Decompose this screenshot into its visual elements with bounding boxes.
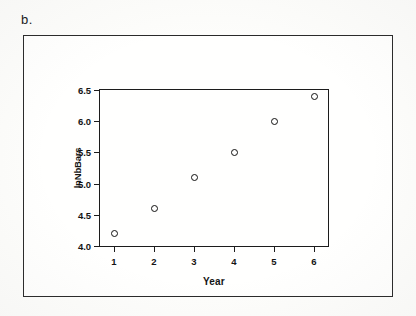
x-axis-tick-label: 6 — [311, 256, 316, 267]
x-axis-tick — [234, 246, 235, 252]
x-axis-title: Year — [203, 276, 225, 287]
y-axis-tick — [94, 184, 100, 185]
y-axis-tick — [94, 90, 100, 91]
y-axis-tick-label: 4.0 — [78, 241, 91, 252]
plot-inner: 4.04.55.05.56.06.5123456 — [100, 90, 328, 246]
data-point-marker — [311, 93, 318, 100]
y-axis-tick — [94, 152, 100, 153]
data-point-marker — [111, 230, 118, 237]
y-axis-tick-label: 4.5 — [78, 209, 91, 220]
y-axis-tick — [94, 246, 100, 247]
x-axis-tick — [154, 246, 155, 252]
x-axis-tick — [194, 246, 195, 252]
x-axis-tick-label: 5 — [271, 256, 276, 267]
data-point-marker — [191, 174, 198, 181]
data-point-marker — [151, 205, 158, 212]
x-axis-tick-label: 3 — [191, 256, 196, 267]
x-axis-tick-label: 4 — [231, 256, 236, 267]
data-point-marker — [231, 149, 238, 156]
x-axis-tick — [114, 246, 115, 252]
y-axis-tick-label: 6.0 — [78, 116, 91, 127]
y-axis-tick — [94, 215, 100, 216]
x-axis-tick — [314, 246, 315, 252]
y-axis-tick-label: 6.5 — [78, 85, 91, 96]
panel-label: b. — [21, 12, 33, 27]
plot-area: 4.04.55.05.56.06.5123456 lnNbBars Year — [99, 89, 329, 247]
data-point-marker — [271, 118, 278, 125]
y-axis-title: lnNbBars — [72, 148, 83, 189]
x-axis-tick-label: 2 — [151, 256, 156, 267]
x-axis-tick — [274, 246, 275, 252]
figure-border: 4.04.55.05.56.06.5123456 lnNbBars Year — [23, 35, 393, 297]
figure-screenshot: b. 4.04.55.05.56.06.5123456 lnNbBars Yea… — [0, 0, 416, 316]
x-axis-tick-label: 1 — [111, 256, 116, 267]
y-axis-tick — [94, 121, 100, 122]
